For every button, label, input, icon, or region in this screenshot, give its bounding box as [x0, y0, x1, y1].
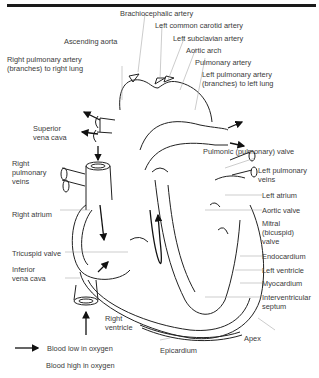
label-right-atrium: Right atrium	[12, 210, 52, 219]
label-left-common-carotid-artery: Left common carotid artery	[155, 21, 243, 30]
label-line: (bicuspid)	[262, 228, 294, 237]
legend-high-oxygen: Blood high in oxygen	[46, 361, 115, 370]
label-line: Mitral	[262, 219, 280, 228]
label-line: (branches) to right lung	[7, 64, 83, 73]
legend-low-oxygen: Blood low in oxygen	[47, 344, 113, 353]
label-endocardium: Endocardium	[262, 252, 306, 261]
label-interventricular-septum: Interventricularseptum	[262, 293, 311, 311]
label-line: vena cava	[12, 274, 46, 283]
label-pulmonary-artery: Pulmonary artery	[195, 58, 251, 67]
label-aortic-valve: Aortic valve	[262, 206, 300, 215]
label-line: veins	[258, 175, 275, 184]
label-left-pulmonary-veins: Left pulmonaryveins	[258, 166, 307, 184]
label-left-subclavian-artery: Left subclavian artery	[173, 34, 243, 43]
label-right-pulmonary-artery: Right pulmonary artery(branches) to righ…	[7, 55, 83, 73]
label-myocardium: Myocardium	[262, 279, 302, 288]
label-aortic-arch: Aortic arch	[186, 46, 221, 55]
label-right-ventricle: Rightventricle	[105, 314, 133, 332]
label-line: vena cava	[33, 133, 67, 142]
label-apex: Apex	[244, 334, 261, 343]
label-line: Right pulmonary artery	[7, 55, 82, 64]
label-line: Interventricular	[262, 293, 311, 302]
label-line: veins	[12, 177, 29, 186]
label-left-atrium: Left atrium	[262, 191, 297, 200]
label-epicardium: Epicardium	[160, 346, 197, 355]
label-line: pulmonary	[12, 168, 47, 177]
label-line: Inferior	[12, 265, 35, 274]
label-brachiocephalic-artery: Brachiocephalic artery	[120, 9, 193, 18]
label-line: Right	[12, 159, 29, 168]
label-pulmonic-valve: Pulmonic (pulmonary) valve	[203, 147, 294, 156]
label-ascending-aorta: Ascending aorta	[64, 37, 117, 46]
label-line: (branches) to left lung	[202, 79, 273, 88]
label-line: Left pulmonary artery	[202, 70, 272, 79]
label-line: valve	[262, 237, 279, 246]
label-superior-vena-cava: Superiorvena cava	[33, 124, 67, 142]
label-line: Left pulmonary	[258, 166, 307, 175]
label-tricuspid-valve: Tricuspid valve	[12, 249, 61, 258]
label-left-ventricle: Left ventricle	[262, 266, 304, 275]
label-mitral-valve: Mitral(bicuspid)valve	[262, 219, 294, 246]
label-line: Superior	[33, 124, 61, 133]
label-line: ventricle	[105, 323, 133, 332]
label-right-pulmonary-veins: Rightpulmonaryveins	[12, 159, 47, 186]
label-line: septum	[262, 302, 286, 311]
label-line: Right	[105, 314, 122, 323]
label-left-pulmonary-artery: Left pulmonary artery(branches) to left …	[202, 70, 273, 88]
label-inferior-vena-cava: Inferiorvena cava	[12, 265, 46, 283]
